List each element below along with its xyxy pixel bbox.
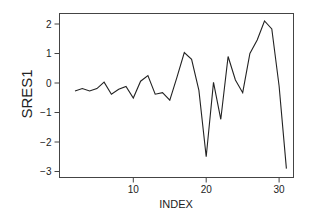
x-axis-title: INDEX bbox=[159, 198, 193, 210]
y-tick-label: −2 bbox=[40, 137, 52, 148]
sres1-line bbox=[75, 21, 286, 169]
y-tick-label: −1 bbox=[40, 107, 52, 118]
y-tick-label: 2 bbox=[46, 19, 52, 30]
x-tick-label: 20 bbox=[201, 184, 213, 195]
y-tick-label: 0 bbox=[46, 78, 52, 89]
x-tick-label: 30 bbox=[274, 184, 286, 195]
x-tick-label: 10 bbox=[128, 184, 140, 195]
line-chart: −3−2−1012 102030 SRES1 INDEX bbox=[0, 0, 309, 219]
y-tick-label: −3 bbox=[40, 166, 52, 177]
y-axis: −3−2−1012 bbox=[40, 19, 59, 178]
y-tick-label: 1 bbox=[46, 48, 52, 59]
x-axis: 102030 bbox=[128, 178, 285, 195]
y-axis-title: SRES1 bbox=[18, 69, 35, 118]
